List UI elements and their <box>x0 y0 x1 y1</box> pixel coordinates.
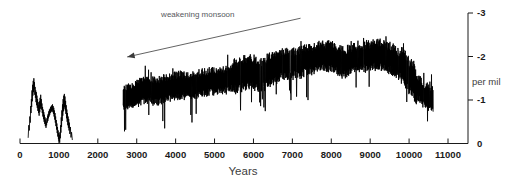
x-axis-ticks <box>20 139 448 144</box>
x-tick-label: 8000 <box>321 150 342 160</box>
y-tick-label: -3 <box>477 8 485 18</box>
x-tick-label: 10000 <box>396 150 422 160</box>
chart-figure: 0100020003000400050006000700080009000100… <box>0 0 513 185</box>
x-tick-label: 9000 <box>360 150 381 160</box>
x-axis-title: Years <box>229 166 258 178</box>
series-recent-segment <box>28 78 72 142</box>
x-tick-label: 0 <box>17 150 22 160</box>
series-holocene-record <box>123 36 433 131</box>
x-tick-label: 1000 <box>48 150 69 160</box>
y-tick-label: -1 <box>477 95 485 105</box>
x-tick-label: 4000 <box>165 150 186 160</box>
x-tick-label: 11000 <box>435 150 461 160</box>
y-tick-label: 0 <box>477 139 482 149</box>
x-tick-label: 6000 <box>243 150 264 160</box>
x-tick-label: 3000 <box>126 150 147 160</box>
x-tick-label: 5000 <box>204 150 225 160</box>
y-tick-label: -2 <box>477 52 485 62</box>
x-tick-label: 7000 <box>282 150 303 160</box>
annotation-arrow <box>127 18 300 58</box>
y-axis-unit-label: per mil <box>472 77 501 87</box>
annotation-weakening-monsoon: weakening monsoon <box>161 11 234 19</box>
x-tick-label: 2000 <box>87 150 108 160</box>
